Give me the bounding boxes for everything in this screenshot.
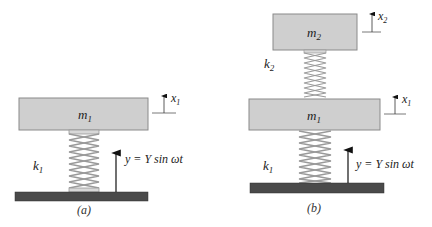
ground-base <box>15 192 148 201</box>
x1-label-b: x1 <box>401 92 411 108</box>
spring-k2-icon <box>304 50 326 97</box>
x2-label: x2 <box>377 9 387 25</box>
caption-b: (b) <box>307 201 321 215</box>
excitation-label: y = Y sin ωt <box>124 152 184 166</box>
excitation-label-b: y = Y sin ωt <box>355 157 415 171</box>
diagram-b: m2 k2 x2 m1 x1 k1 y = Y sin ωt (b) <box>249 9 415 215</box>
spring-k1-icon <box>69 130 99 192</box>
diagram-a: m1 k1 y = Y sin ωt x1 (a) <box>15 91 184 217</box>
caption-a: (a) <box>77 203 91 217</box>
spring-k1-label: k1 <box>33 158 43 175</box>
spring-k1-icon-b <box>299 131 331 183</box>
spring-k1-label-b: k1 <box>263 158 273 175</box>
ground-base-b <box>250 183 384 193</box>
x1-label: x1 <box>170 91 180 107</box>
spring-k2-label: k2 <box>264 56 275 73</box>
